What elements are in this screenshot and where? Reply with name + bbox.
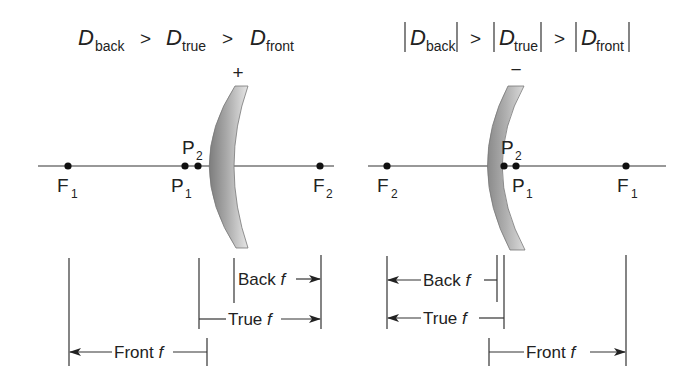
d-front-subscript: front bbox=[266, 38, 294, 54]
label-f1-sub: 1 bbox=[71, 187, 78, 201]
label-p2: P bbox=[182, 137, 195, 158]
left-panel: D back > D true > D front + F 1 P 1 P 2 … bbox=[38, 25, 334, 366]
d-true-subscript-abs: true bbox=[514, 38, 538, 54]
dim-back-f-left: Back f bbox=[238, 270, 288, 289]
label-f1-sub-right: 1 bbox=[631, 187, 638, 201]
right-relation: D back > D true > D front bbox=[405, 22, 629, 54]
label-f2-right: F bbox=[377, 175, 389, 196]
d-true-symbol-abs: D bbox=[499, 25, 515, 50]
dim-back-f-right: Back f bbox=[423, 271, 473, 290]
principal-point-p2-right bbox=[500, 162, 507, 169]
label-p2-sub-right: 2 bbox=[515, 149, 522, 163]
label-p1-right: P bbox=[512, 175, 525, 196]
dim-front-f-right: Front f bbox=[526, 343, 577, 362]
dim-true-f-left: True f bbox=[228, 310, 274, 329]
principal-point-p1 bbox=[181, 162, 188, 169]
label-f2: F bbox=[313, 175, 325, 196]
d-front-symbol: D bbox=[250, 25, 266, 50]
d-back-subscript: back bbox=[95, 38, 126, 54]
principal-point-p1-right bbox=[512, 162, 519, 169]
positive-sign: + bbox=[232, 62, 243, 83]
greater-than-1: > bbox=[140, 28, 151, 49]
left-relation: D back > D true > D front bbox=[78, 25, 294, 54]
dim-front-f-left: Front f bbox=[114, 343, 165, 362]
d-front-subscript-abs: front bbox=[596, 38, 624, 54]
d-true-subscript: true bbox=[182, 38, 206, 54]
focal-point-f2-right bbox=[383, 162, 390, 169]
label-p1: P bbox=[171, 175, 184, 196]
principal-point-p2 bbox=[194, 162, 201, 169]
label-f1-right: F bbox=[617, 175, 629, 196]
focal-point-f1-right bbox=[622, 162, 629, 169]
dim-true-f-right: True f bbox=[423, 309, 469, 328]
greater-than-abs-1: > bbox=[470, 28, 481, 49]
greater-than-2: > bbox=[222, 28, 233, 49]
label-p1-sub: 1 bbox=[185, 187, 192, 201]
label-p1-sub-right: 1 bbox=[526, 187, 533, 201]
label-p2-sub: 2 bbox=[196, 149, 203, 163]
focal-point-f2 bbox=[316, 162, 323, 169]
label-f1: F bbox=[57, 175, 69, 196]
d-true-symbol: D bbox=[166, 25, 182, 50]
d-front-symbol-abs: D bbox=[581, 25, 597, 50]
label-p2-right: P bbox=[501, 137, 514, 158]
focal-point-f1 bbox=[64, 162, 71, 169]
label-f2-sub-right: 2 bbox=[391, 187, 398, 201]
d-back-subscript-abs: back bbox=[426, 38, 457, 54]
positive-meniscus-lens bbox=[209, 86, 248, 248]
d-back-symbol-abs: D bbox=[410, 25, 426, 50]
d-back-symbol: D bbox=[78, 25, 94, 50]
negative-sign: − bbox=[510, 59, 521, 80]
label-f2-sub: 2 bbox=[326, 187, 333, 201]
lens-diagram: D back > D true > D front + F 1 P 1 P 2 … bbox=[0, 0, 697, 379]
greater-than-abs-2: > bbox=[554, 28, 565, 49]
right-panel: D back > D true > D front − F 2 P 2 P 1 bbox=[368, 22, 666, 366]
